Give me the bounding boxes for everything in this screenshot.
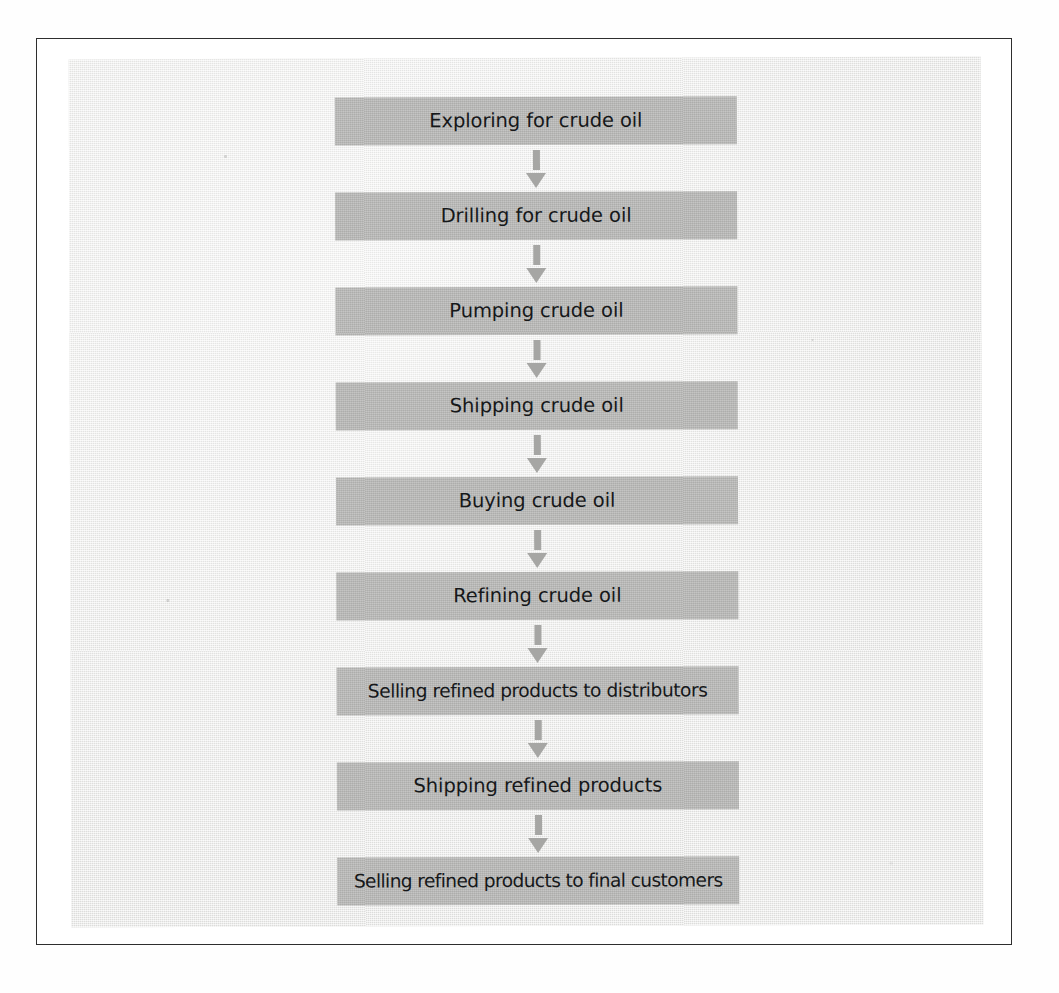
down-arrow-icon xyxy=(533,244,540,264)
down-arrow-icon xyxy=(527,647,547,662)
flow-step-label: Shipping refined products xyxy=(414,776,663,796)
flow-step-5[interactable]: Buying crude oil xyxy=(336,476,738,525)
down-arrow-icon xyxy=(534,624,541,644)
flow-step-label: Pumping crude oil xyxy=(449,301,623,321)
down-arrow-icon xyxy=(533,434,540,454)
page: Exploring for crude oil Drilling for cru… xyxy=(0,0,1059,993)
flow-step-label: Selling refined products to final custom… xyxy=(354,871,723,891)
flow-step-6[interactable]: Refining crude oil xyxy=(336,571,738,620)
down-arrow-icon xyxy=(535,814,542,834)
paper-speck xyxy=(889,862,893,865)
flow-step-label: Selling refined products to distributors xyxy=(368,681,708,701)
down-arrow-icon xyxy=(526,172,546,187)
flow-step-label: Drilling for crude oil xyxy=(441,206,632,226)
down-arrow-icon xyxy=(534,719,541,739)
flow-step-7[interactable]: Selling refined products to distributors xyxy=(337,666,739,715)
flow-connector-4 xyxy=(336,429,738,477)
flowchart-column: Exploring for crude oil Drilling for cru… xyxy=(335,96,740,905)
flow-step-9[interactable]: Selling refined products to final custom… xyxy=(337,856,739,905)
down-arrow-icon xyxy=(527,457,547,472)
flow-connector-8 xyxy=(337,809,739,857)
paper-speck xyxy=(166,599,169,602)
down-arrow-icon xyxy=(528,837,548,852)
flow-step-label: Buying crude oil xyxy=(459,491,616,511)
flow-step-label: Exploring for crude oil xyxy=(429,111,642,131)
figure-panel: Exploring for crude oil Drilling for cru… xyxy=(69,57,984,928)
flow-step-1[interactable]: Exploring for crude oil xyxy=(335,96,737,145)
flow-step-label: Shipping crude oil xyxy=(450,396,624,416)
down-arrow-icon xyxy=(532,149,539,169)
paper-speck xyxy=(224,155,227,158)
down-arrow-icon xyxy=(533,339,540,359)
flow-connector-7 xyxy=(337,714,739,762)
paper-speck xyxy=(812,339,814,341)
down-arrow-icon xyxy=(526,267,546,282)
down-arrow-icon xyxy=(527,552,547,567)
scanned-plate: Exploring for crude oil Drilling for cru… xyxy=(35,36,1014,946)
flow-connector-5 xyxy=(336,524,738,572)
flow-connector-2 xyxy=(335,239,737,287)
flow-step-2[interactable]: Drilling for crude oil xyxy=(335,191,737,240)
flow-step-4[interactable]: Shipping crude oil xyxy=(336,381,738,430)
flow-step-label: Refining crude oil xyxy=(453,586,621,606)
down-arrow-icon xyxy=(527,362,547,377)
down-arrow-icon xyxy=(528,742,548,757)
flow-connector-6 xyxy=(336,619,738,667)
flow-connector-1 xyxy=(335,144,737,192)
flow-step-3[interactable]: Pumping crude oil xyxy=(335,286,737,335)
flow-connector-3 xyxy=(336,334,738,382)
flow-step-8[interactable]: Shipping refined products xyxy=(337,761,739,810)
down-arrow-icon xyxy=(534,529,541,549)
